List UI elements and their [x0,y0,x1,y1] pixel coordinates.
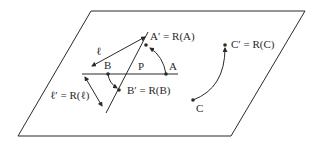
point-b-prime [117,88,121,92]
label-b-prime: B′ = R(B) [127,84,171,97]
point-c-prime [223,43,227,47]
arc-c-to-c-prime [193,48,225,100]
label-b: B [104,59,111,71]
label-p: P [138,60,144,72]
arc-a-to-a-prime [150,48,166,74]
label-a: A [169,60,177,72]
label-c: C [196,102,203,114]
label-a-prime: A′ = R(A) [150,30,195,43]
point-a [164,72,168,76]
point-b [106,72,110,76]
point-c [191,98,195,102]
point-a-prime [144,43,148,47]
label-l-prime: ℓ′ = R(ℓ) [50,89,90,102]
rotation-diagram: ℓ A′ = R(A) C′ = R(C) B P A B′ = R(B) ℓ′… [0,0,319,145]
label-c-prime: C′ = R(C) [231,38,275,51]
line-l-prime [106,32,148,113]
arc-b-to-b-prime [108,74,117,88]
label-l: ℓ [96,45,101,57]
